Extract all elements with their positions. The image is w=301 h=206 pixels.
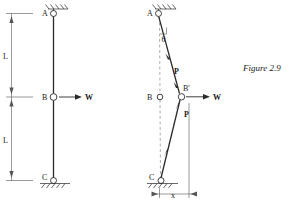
ground-hatch-C-right	[147, 184, 178, 189]
member-force-label-P-lower: P	[184, 110, 189, 119]
right-diagram: A θ P P B B'	[147, 5, 221, 200]
dimension-label-L-upper: L	[3, 52, 8, 61]
original-hinge-node-B-right	[157, 94, 163, 100]
figure-caption: Figure 2.9	[242, 63, 281, 73]
load-label-W-left: W	[85, 93, 93, 102]
figure-canvas: A B W C	[0, 0, 301, 206]
dimension-label-x: x	[171, 191, 175, 200]
node-label-B-left: B	[42, 93, 47, 102]
member-force-label-P-upper: P	[174, 67, 179, 76]
dimension-label-L-lower: L	[3, 136, 8, 145]
pin-node-A-right	[156, 11, 162, 17]
load-arrow-W-left	[59, 94, 82, 100]
pin-node-C-right	[158, 178, 164, 184]
node-label-C-right: C	[149, 173, 154, 182]
pin-node-A-left	[51, 11, 57, 17]
support-hatch-A-left	[46, 5, 69, 10]
displaced-hinge-node-B-prime	[178, 94, 184, 100]
node-label-C-left: C	[42, 173, 47, 182]
ground-hatch-C-left	[40, 184, 70, 189]
node-label-B-right: B	[147, 93, 152, 102]
member-AB-prime-right	[159, 17, 180, 94]
figure-2-9: A B W C	[0, 0, 301, 206]
member-CB-prime-right	[161, 100, 180, 178]
load-label-W-right: W	[213, 93, 221, 102]
node-label-A-right: A	[147, 9, 153, 18]
node-label-A-left: A	[42, 9, 48, 18]
load-arrow-W-right	[186, 94, 210, 100]
dimension-chain-left	[6, 14, 33, 181]
node-label-B-prime: B'	[183, 84, 190, 93]
left-diagram: A B W C	[3, 5, 93, 189]
hinge-node-B-left	[50, 94, 57, 101]
pin-node-C-left	[51, 178, 57, 184]
support-hatch-A-right	[153, 5, 177, 10]
angle-label-theta: θ	[162, 35, 166, 44]
